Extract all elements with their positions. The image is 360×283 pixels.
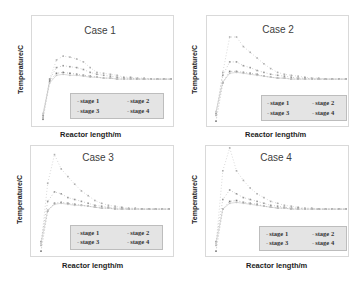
data-point [229,36,231,38]
data-point [297,75,299,77]
data-point [130,78,132,80]
data-point [263,205,265,207]
data-point [249,199,251,201]
data-point [101,205,103,207]
data-point [56,73,58,75]
panel-case-3: Case 3 Temperature/C Reactor length/m -s… [0,140,180,283]
stage-4-marker-icon: - [127,107,129,114]
data-point [338,78,340,80]
data-point [83,75,85,77]
data-point [110,74,112,76]
data-point [81,190,83,192]
data-point [54,191,56,193]
data-point [62,65,64,67]
data-point [256,193,258,195]
data-point [284,205,286,207]
data-point [76,67,78,69]
data-point [67,197,69,199]
stage-1-marker-icon: - [77,97,79,104]
data-point [311,78,313,80]
data-point [54,154,56,156]
data-point [56,67,58,69]
data-point [215,245,217,247]
x-axis-label: Reactor length/m [245,130,306,139]
data-point [229,189,231,191]
legend: -stage 1 -stage 2 -stage 3 -stage 4 [259,226,347,251]
data-point [215,113,217,115]
data-point [40,250,42,252]
data-point [121,208,123,210]
data-point [284,77,286,79]
stage-3-marker-icon: - [77,107,79,114]
legend: -stage 1 -stage 2 -stage 3 -stage 4 [70,93,164,119]
data-point [74,199,76,201]
data-point [74,183,76,185]
data-point [101,207,103,209]
data-point [263,63,265,65]
data-point [49,82,51,84]
y-axis-label: Temperature/C [16,160,23,240]
data-point [54,204,56,206]
data-point [96,76,98,78]
data-point [304,78,306,80]
data-point [40,243,42,245]
data-point [243,73,245,75]
data-point [103,75,105,77]
data-point [60,193,62,195]
data-point [74,205,76,207]
data-point [270,206,272,208]
data-point [256,75,258,77]
data-point [263,72,265,74]
data-point [69,75,71,77]
data-point [89,67,91,69]
data-point [222,208,224,210]
panel-case-1: Case 1 Temperature/C Reactor length/m -s… [0,0,180,140]
data-point [332,78,334,80]
data-point [284,74,286,76]
data-point [243,203,245,205]
data-point [62,72,64,74]
stage-1-marker-icon: - [266,230,268,237]
data-point [311,208,313,210]
x-axis-label: Reactor length/m [60,130,121,139]
panel-case-2: Case 2 Temperature/C Reactor length/m -s… [180,0,360,140]
data-point [249,74,251,76]
data-point [143,78,145,80]
data-point [270,74,272,76]
data-point [56,59,58,61]
data-point [277,203,279,205]
data-point [42,119,44,121]
data-point [236,202,238,204]
data-point [47,183,49,185]
data-point [123,78,125,80]
data-point [96,72,98,74]
data-point [155,208,157,210]
data-point [40,245,42,247]
data-point [222,72,224,74]
data-point [291,208,293,210]
data-point [56,75,58,77]
stage-4-marker-icon: - [312,109,314,116]
x-axis-label: Reactor length/m [246,261,307,270]
chart-title: Case 4 [246,152,306,163]
data-point [249,204,251,206]
legend-item-stage-4: -stage 4 [312,109,334,116]
data-point [215,243,217,245]
data-point [284,207,286,209]
stage-1-marker-icon: - [267,99,269,106]
data-point [49,80,51,82]
legend-item-stage-2: -stage 2 [127,97,149,104]
data-point [108,207,110,209]
chart-title: Case 3 [68,152,128,163]
legend-item-stage-2: -stage 2 [312,99,334,106]
legend-item-stage-1: -stage 1 [77,229,99,236]
data-point [297,208,299,210]
data-point [297,78,299,80]
data-point [270,76,272,78]
data-point [83,61,85,63]
data-point [47,209,49,211]
data-point [263,203,265,205]
stage-3-marker-icon: - [267,109,269,116]
data-point [168,208,170,210]
data-point [222,81,224,83]
